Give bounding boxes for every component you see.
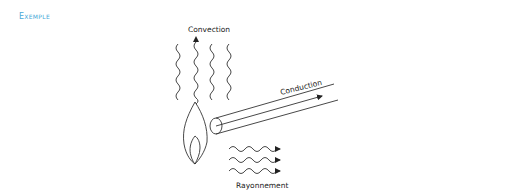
convection-wave-4: [227, 44, 231, 100]
heat-transfer-diagram: Convection Conduction Rayonnement: [0, 0, 512, 192]
convection-wave-2: [194, 42, 198, 104]
conduction-label: Conduction: [279, 78, 323, 97]
flame-icon: [183, 102, 207, 164]
radiation-wave-2: [229, 158, 280, 163]
convection-label: Convection: [188, 25, 230, 34]
radiation-wave-1: [229, 147, 280, 152]
radiation-wave-3: [229, 169, 280, 174]
rayonnement-label: Rayonnement: [236, 181, 288, 190]
convection-wave-1: [176, 44, 180, 100]
convection-wave-3: [210, 44, 214, 100]
radiation-waves: [229, 147, 280, 174]
convection-arrow-icon: [193, 36, 199, 42]
convection-waves: [176, 42, 231, 104]
